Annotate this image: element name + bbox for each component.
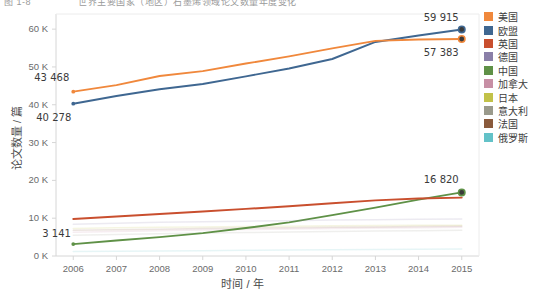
legend-swatch-icon: [484, 106, 493, 115]
legend-item-2[interactable]: 英国: [484, 37, 539, 50]
data-point-label: 57 383: [424, 47, 459, 58]
legend-item-7[interactable]: 意大利: [484, 104, 539, 117]
data-point-label: 43 468: [34, 72, 69, 83]
legend-swatch-icon: [484, 93, 493, 102]
legend-swatch-icon: [484, 12, 493, 21]
x-axis-tick-label: 2008: [140, 263, 180, 274]
legend-swatch-icon: [484, 79, 493, 88]
series-layer: [73, 29, 461, 251]
x-axis-tick-label: 2007: [96, 263, 136, 274]
data-point-label: 3 141: [42, 228, 71, 239]
legend-item-0[interactable]: 美国: [484, 10, 539, 23]
legend-item-9[interactable]: 俄罗斯: [484, 131, 539, 144]
legend-swatch-icon: [484, 39, 493, 48]
x-axis-tick-label: 2009: [183, 263, 223, 274]
x-axis-tick-label: 2010: [226, 263, 266, 274]
y-axis-title: 论文数量 / 篇: [8, 73, 24, 203]
x-axis-tick-label: 2015: [442, 263, 482, 274]
y-axis-tick-label: 10 K: [14, 212, 48, 223]
legend-swatch-icon: [484, 119, 493, 128]
legend-item-4[interactable]: 中国: [484, 64, 539, 77]
legend-item-1[interactable]: 欧盟: [484, 23, 539, 36]
legend-item-6[interactable]: 日本: [484, 90, 539, 103]
x-axis-tick-label: 2012: [312, 263, 352, 274]
x-axis-tick-label: 2006: [53, 263, 93, 274]
legend-swatch-icon: [484, 52, 493, 61]
legend-item-3[interactable]: 德国: [484, 50, 539, 63]
legend-swatch-icon: [484, 26, 493, 35]
legend-item-label: 俄罗斯: [498, 130, 528, 145]
y-axis-tick-label: 50 K: [14, 61, 48, 72]
chart-legend: 美国欧盟英国德国中国加拿大日本意大利法国俄罗斯: [484, 10, 539, 144]
data-point-label: 16 820: [424, 174, 459, 185]
data-point-label: 40 278: [36, 112, 71, 123]
x-axis-title: 时间 / 年: [0, 275, 485, 291]
y-axis-tick-label: 60 K: [14, 23, 48, 34]
legend-swatch-icon: [484, 66, 493, 75]
figure-container: 图 1-8 世界主要国家（地区）石墨烯领域论文数量年度变化 0 K10 K20 …: [0, 0, 539, 294]
x-axis-tick-label: 2011: [269, 263, 309, 274]
data-point-label: 59 915: [424, 12, 459, 23]
legend-item-8[interactable]: 法国: [484, 117, 539, 130]
x-axis-tick-label: 2014: [399, 263, 439, 274]
legend-item-5[interactable]: 加拿大: [484, 77, 539, 90]
legend-swatch-icon: [484, 133, 493, 142]
line-chart-plot: [0, 0, 539, 294]
x-axis-tick-label: 2013: [355, 263, 395, 274]
y-axis-tick-label: 0 K: [14, 250, 48, 261]
